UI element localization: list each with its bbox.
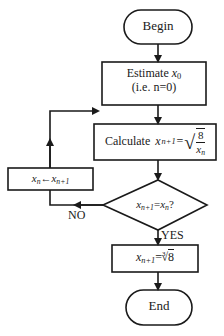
begin-label: Begin	[124, 19, 192, 34]
yes-text: YES	[161, 228, 184, 242]
decision-lhs-sub: n+1	[141, 203, 154, 212]
decision-q: ?	[169, 198, 174, 210]
yes-label: YES	[161, 229, 184, 243]
den-sub: n	[201, 148, 205, 157]
end-label: End	[126, 299, 192, 314]
loop-return-arrow	[50, 111, 98, 168]
calculate-lhs-var: x	[155, 135, 160, 149]
no-label: NO	[68, 209, 85, 223]
calculate-text: Calculate	[105, 135, 150, 149]
fraction-denominator: xn	[196, 143, 205, 156]
radicand: 8	[168, 249, 174, 264]
calculate-label: Calculate xn+1 = √ 8 xn	[94, 127, 216, 157]
no-text: NO	[68, 208, 85, 222]
estimate-sub: 0	[177, 72, 181, 81]
calculate-fraction: 8 xn	[196, 128, 205, 155]
end-text: End	[149, 298, 170, 313]
begin-text: Begin	[142, 18, 173, 33]
fraction-numerator: 8	[196, 129, 205, 143]
calculate-eq: =	[177, 135, 184, 149]
estimate-line1: Estimate x0	[102, 67, 206, 81]
assign-arrow-icon: ←	[40, 172, 51, 184]
assign-label: xn←xn+1	[8, 172, 93, 185]
sqrt-icon: √	[184, 132, 195, 152]
decision-label: xn+1=xn?	[103, 198, 207, 211]
assign-rhs-sub: n+1	[56, 177, 69, 186]
estimate-label: Estimate x0 (i.e. n=0)	[102, 67, 206, 95]
no-branch-line	[50, 190, 103, 205]
estimate-line2: (i.e. n=0)	[102, 81, 206, 95]
estimate-text: Estimate	[127, 66, 169, 80]
result-lhs-sub: n+1	[141, 256, 155, 265]
flowchart-canvas	[0, 0, 224, 336]
result-label: xn+1=3√8	[112, 250, 198, 265]
